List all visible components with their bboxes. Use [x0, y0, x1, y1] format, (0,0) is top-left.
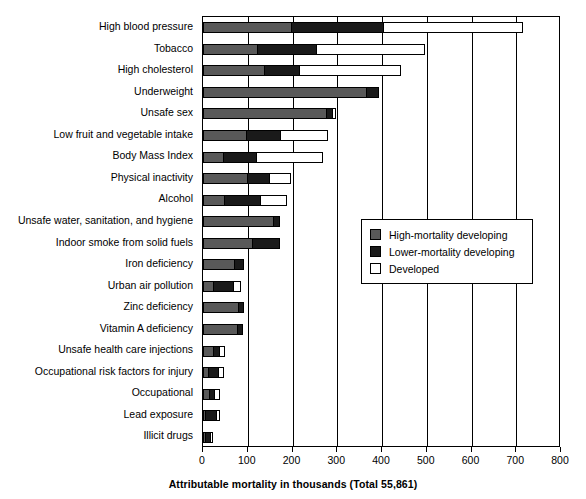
bar-row: [203, 17, 559, 39]
bar-segment-high: [203, 195, 225, 206]
bar-segment-lower: [246, 130, 281, 141]
x-axis-tick: [247, 447, 248, 452]
bar-row: [203, 426, 559, 448]
bar-segment-dev: [269, 173, 291, 184]
bar-segment-high: [203, 259, 235, 270]
stacked-bar: [203, 44, 425, 55]
bar-row: [203, 297, 559, 319]
stacked-bar: [203, 238, 280, 249]
stacked-bar: [203, 195, 287, 206]
bar-segment-high: [203, 152, 224, 163]
x-axis-tick-label: 100: [238, 454, 256, 466]
stacked-bar: [203, 281, 241, 292]
bar-segment-dev: [332, 108, 337, 119]
legend-swatch-icon: [370, 246, 381, 257]
y-axis-label: Alcohol: [159, 188, 193, 210]
stacked-bar: [203, 130, 328, 141]
y-axis-label: Indoor smoke from solid fuels: [56, 232, 193, 254]
bar-segment-high: [203, 44, 258, 55]
bar-segment-lower: [247, 173, 270, 184]
stacked-bar: [203, 346, 225, 357]
y-axis-label: Physical inactivity: [111, 167, 193, 189]
bar-segment-lower: [213, 281, 233, 292]
bar-row: [203, 340, 559, 362]
x-axis-tick-label: 800: [551, 454, 569, 466]
bar-segment-lower: [264, 65, 300, 76]
bar-row: [203, 168, 559, 190]
x-axis-tick: [426, 447, 427, 452]
legend-label: Developed: [389, 263, 439, 275]
x-axis: 0100200300400500600700800: [202, 447, 560, 448]
legend-item: Lower-mortality developing: [370, 243, 524, 260]
stacked-bar: [203, 259, 244, 270]
x-axis-tick-label: 200: [283, 454, 301, 466]
bar-segment-high: [203, 216, 274, 227]
y-axis-label: Urban air pollution: [108, 275, 193, 297]
stacked-bar: [203, 216, 280, 227]
bar-segment-lower: [234, 259, 244, 270]
stacked-bar: [203, 173, 291, 184]
y-axis-label: Occupational risk factors for injury: [35, 361, 193, 383]
x-axis-tick-label: 400: [372, 454, 390, 466]
bar-segment-high: [203, 238, 253, 249]
bar-segment-dev: [216, 410, 220, 421]
bar-row: [203, 82, 559, 104]
x-axis-tick-label: 300: [327, 454, 345, 466]
y-axis-label: Zinc deficiency: [124, 296, 193, 318]
x-axis-tick: [471, 447, 472, 452]
y-axis-label: Tobacco: [154, 38, 193, 60]
y-axis-labels: High blood pressureTobaccoHigh cholester…: [0, 16, 198, 447]
stacked-bar: [203, 410, 220, 421]
bar-row: [203, 405, 559, 427]
bar-segment-dev: [233, 281, 242, 292]
legend-label: High-mortality developing: [389, 229, 507, 241]
y-axis-label: Vitamin A deficiency: [100, 318, 193, 340]
y-axis-label: Occupational: [132, 382, 193, 404]
stacked-bar: [203, 152, 323, 163]
stacked-bar: [203, 389, 220, 400]
y-axis-label: Iron deficiency: [125, 253, 193, 275]
bar-segment-dev: [219, 346, 225, 357]
y-axis-label: Illicit drugs: [143, 425, 193, 447]
x-axis-tick-label: 0: [199, 454, 205, 466]
legend-item: High-mortality developing: [370, 226, 524, 243]
legend-item: Developed: [370, 260, 524, 277]
bar-segment-lower: [366, 87, 379, 98]
bar-segment-high: [203, 22, 292, 33]
x-axis-title: Attributable mortality in thousands (Tot…: [0, 478, 586, 490]
bar-row: [203, 319, 559, 341]
legend: High-mortality developingLower-mortality…: [361, 219, 533, 284]
bar-row: [203, 60, 559, 82]
bar-row: [203, 362, 559, 384]
bar-segment-dev: [280, 130, 328, 141]
x-axis-tick-label: 500: [417, 454, 435, 466]
bar-segment-lower: [237, 324, 243, 335]
bar-row: [203, 125, 559, 147]
y-axis-label: Unsafe health care injections: [58, 339, 193, 361]
stacked-bar: [203, 324, 243, 335]
stacked-bar: [203, 108, 336, 119]
stacked-bar: [203, 432, 213, 443]
legend-swatch-icon: [370, 263, 381, 274]
y-axis-label: Underweight: [134, 81, 193, 103]
y-axis-label: Lead exposure: [124, 404, 193, 426]
stacked-bar: [203, 22, 523, 33]
bar-segment-high: [203, 65, 265, 76]
bar-row: [203, 146, 559, 168]
x-axis-tick-label: 700: [506, 454, 524, 466]
bar-segment-dev: [218, 367, 224, 378]
x-axis-tick: [336, 447, 337, 452]
stacked-bar: [203, 87, 379, 98]
y-axis-label: Unsafe water, sanitation, and hygiene: [18, 210, 193, 232]
stacked-bar: [203, 367, 224, 378]
stacked-bar: [203, 302, 244, 313]
y-axis-label: Unsafe sex: [140, 102, 193, 124]
x-axis-tick: [381, 447, 382, 452]
x-axis-tick: [202, 447, 203, 452]
bar-segment-dev: [256, 152, 324, 163]
attributable-mortality-chart: High blood pressureTobaccoHigh cholester…: [0, 0, 586, 499]
y-axis-label: High blood pressure: [99, 16, 193, 38]
x-axis-tick: [560, 447, 561, 452]
bar-segment-high: [203, 173, 248, 184]
bar-segment-dev: [210, 432, 213, 443]
